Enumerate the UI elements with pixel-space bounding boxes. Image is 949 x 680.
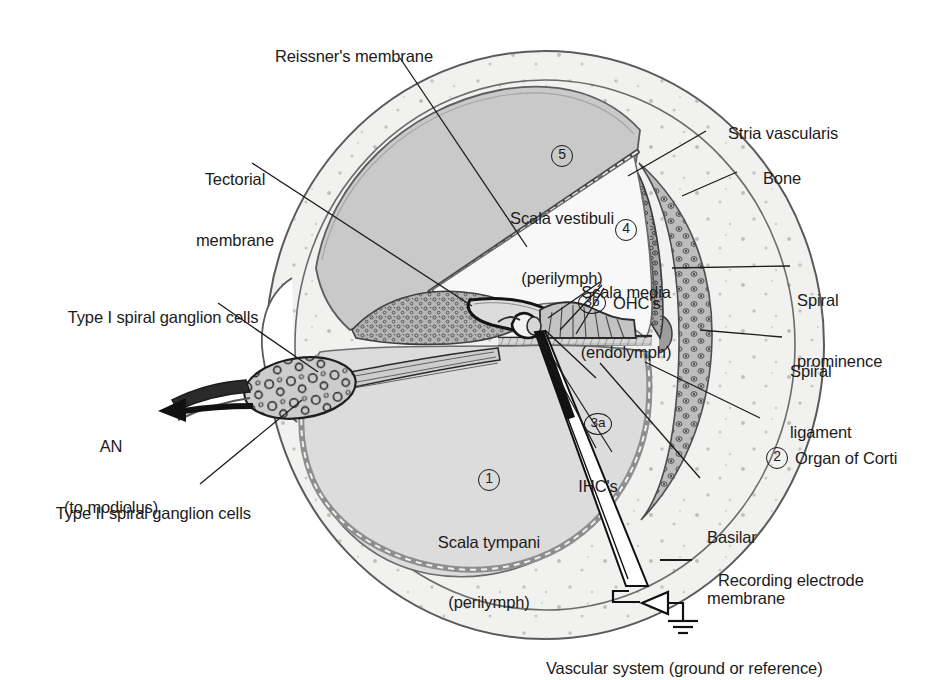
label-recording-electrode: Recording electrode <box>700 550 864 610</box>
scala-tympani-text-line2: (perilymph) <box>408 592 570 612</box>
reissners-membrane-text: Reissner's membrane <box>275 47 433 65</box>
label-ohc: 3b OHC's <box>578 252 661 355</box>
label-ihc: 3a IHC's <box>560 368 636 536</box>
scala-tympani-text-line1: Scala tympani <box>408 532 570 552</box>
label-vascular-system: Vascular system (ground or reference) <box>528 638 823 680</box>
spiral-prominence-text-line1: Spiral <box>797 290 882 310</box>
cochlea-cross-section-figure: Reissner's membrane Tectorial membrane 5… <box>0 0 949 680</box>
scala-media-number-badge: 4 <box>615 219 637 241</box>
organ-of-corti-text: Organ of Corti <box>795 448 897 468</box>
stria-vascularis-text: Stria vascularis <box>728 124 838 142</box>
type-i-ganglion-text: Type I spiral ganglion cells <box>68 308 259 326</box>
recording-electrode-text: Recording electrode <box>718 571 864 589</box>
label-tectorial-membrane: Tectorial membrane <box>176 129 294 290</box>
ohc-text: OHC's <box>613 293 661 313</box>
ihc-number-badge: 3a <box>584 413 612 435</box>
an-text-line1: AN <box>48 436 174 456</box>
an-text-line2: (to modiolus) <box>48 497 174 517</box>
bone-text: Bone <box>763 169 801 187</box>
label-organ-of-corti: 2 Organ of Corti <box>766 407 897 510</box>
basilar-membrane-text-line1: Basilar <box>707 527 785 547</box>
label-type-i-ganglion: Type I spiral ganglion cells <box>50 287 258 347</box>
spiral-ligament-text-line1: Spiral <box>790 361 852 381</box>
vascular-system-text: Vascular system (ground or reference) <box>546 659 823 677</box>
tectorial-membrane-text-line2: membrane <box>176 230 294 250</box>
label-bone: Bone <box>745 148 801 208</box>
scala-tympani-number-badge: 1 <box>478 469 500 491</box>
organ-of-corti-number-badge: 2 <box>766 447 788 469</box>
ohc-number-badge: 3b <box>578 292 606 314</box>
tectorial-membrane-text-line1: Tectorial <box>176 169 294 189</box>
scala-vestibuli-number-badge: 5 <box>551 145 573 167</box>
label-scala-tympani: 1 Scala tympani (perilymph) <box>408 424 570 652</box>
ihc-text: IHC's <box>560 476 636 496</box>
label-reissners-membrane: Reissner's membrane <box>252 26 438 86</box>
label-an: AN (to modiolus) <box>48 396 174 557</box>
